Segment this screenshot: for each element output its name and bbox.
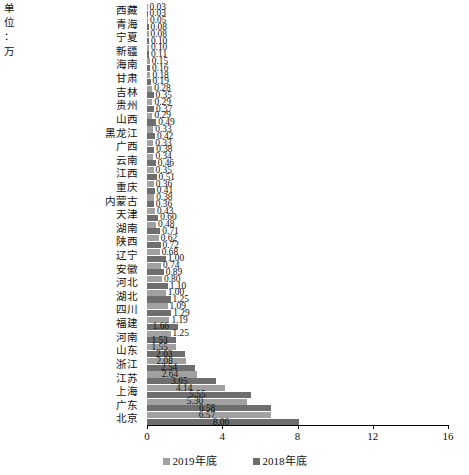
bar-2019 <box>147 4 148 10</box>
x-tick <box>298 425 299 429</box>
legend-label: 2019年底 <box>173 455 217 467</box>
bar-2019 <box>147 86 152 92</box>
bar-chart: 单位：万 西藏0.030.03青海0.050.08宁夏0.080.10新疆0.1… <box>0 0 469 475</box>
legend-item[interactable]: 2018年底 <box>253 452 307 468</box>
x-tick-label: 16 <box>433 430 463 442</box>
bar-2019 <box>147 72 150 78</box>
bar-2019 <box>147 222 156 228</box>
x-tick-label: 12 <box>358 430 388 442</box>
bar-2019 <box>147 154 153 160</box>
legend-swatch-icon <box>253 458 260 465</box>
bar-2019 <box>147 208 155 214</box>
value-label-2019: 1.19 <box>171 317 187 324</box>
bar-2019 <box>147 58 150 64</box>
legend-item[interactable]: 2019年底 <box>163 452 217 468</box>
bar-2019 <box>147 263 161 269</box>
bar-2019 <box>147 194 154 200</box>
chart-legend: 2019年底2018年底 <box>0 452 469 468</box>
bar-2019 <box>147 181 154 187</box>
bar-2019 <box>147 276 162 282</box>
legend-label: 2018年底 <box>263 455 307 467</box>
x-tick <box>373 425 374 429</box>
x-tick <box>147 425 148 429</box>
bar-2019 <box>147 140 153 146</box>
bar-2019 <box>147 167 154 173</box>
value-label-2019: 1.25 <box>173 330 189 337</box>
bar-2019 <box>147 303 168 309</box>
bar-2019 <box>147 249 160 255</box>
x-tick-label: 0 <box>132 430 162 442</box>
bar-2019 <box>147 126 153 132</box>
bar-2019 <box>147 45 149 51</box>
bar-2019 <box>147 290 166 296</box>
x-tick-label: 4 <box>207 430 237 442</box>
x-tick <box>448 425 449 429</box>
category-label: 北京 <box>18 411 142 426</box>
bar-2019 <box>147 235 159 241</box>
x-tick-label: 8 <box>283 430 313 442</box>
bar-2019 <box>147 18 148 24</box>
bar-2019 <box>147 31 149 37</box>
x-tick <box>222 425 223 429</box>
bar-2019 <box>147 113 152 119</box>
legend-swatch-icon <box>163 458 170 465</box>
bar-2019 <box>147 99 152 105</box>
